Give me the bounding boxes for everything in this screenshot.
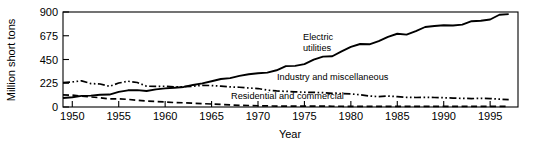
energy-consumption-line-chart: 0225450675900 19501955196019651970197519… (0, 0, 538, 143)
series-label-industry: Industry and miscellaneous (277, 72, 389, 82)
chart-figure: 0225450675900 19501955196019651970197519… (0, 0, 538, 143)
x-tick-label: 1970 (246, 110, 270, 122)
x-tick-label: 1990 (431, 110, 455, 122)
y-tick-label: 225 (40, 77, 58, 89)
series-label-residential: Residential and commercial (231, 91, 344, 101)
x-tick-label: 1960 (153, 110, 177, 122)
series-line-0 (63, 14, 509, 98)
x-tick-label: 1955 (106, 110, 130, 122)
x-axis-title: Year (279, 128, 302, 140)
series-label-electric-utilities-line2: utilities (303, 43, 331, 53)
y-tick-label: 450 (40, 54, 58, 66)
y-tick-label: 900 (40, 6, 58, 18)
x-tick-label: 1995 (478, 110, 502, 122)
x-tick-label: 1980 (339, 110, 363, 122)
x-tick-label: 1975 (292, 110, 316, 122)
y-axis-title: Million short tons (5, 18, 17, 101)
y-tick-label: 675 (40, 30, 58, 42)
x-tick-label: 1950 (60, 110, 84, 122)
y-tick-labels: 0225450675900 (40, 6, 58, 113)
x-tick-label: 1985 (385, 110, 409, 122)
series-label-electric-utilities-line1: Electric (303, 32, 334, 42)
x-tick-label: 1965 (199, 110, 223, 122)
x-tick-labels: 1950195519601965197019751980198519901995 (60, 110, 502, 122)
y-tick-label: 0 (52, 101, 58, 113)
